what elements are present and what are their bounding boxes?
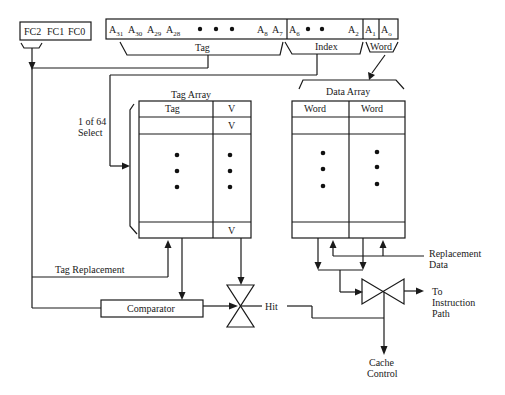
fc1-label: FC1: [47, 26, 64, 37]
ellipsis-dot: [214, 27, 218, 31]
function-code-register: FC2 FC1 FC0: [20, 22, 91, 40]
word-column-header: Word: [304, 103, 326, 114]
tag-replacement-arrowhead: [165, 240, 172, 248]
valid-bit-row: V: [228, 225, 236, 236]
instruction-path-label-2: Instruction: [432, 297, 475, 308]
word-field-label: Word: [370, 41, 392, 52]
instruction-path-label-3: Path: [432, 308, 450, 319]
tag-column-header: Tag: [165, 103, 180, 114]
hit-label: Hit: [265, 301, 278, 312]
tag-array-title: Tag Array: [171, 89, 211, 100]
replacement-arrowhead-2: [380, 240, 387, 248]
fc0-label: FC0: [68, 26, 85, 37]
valid-column-header: V: [228, 103, 236, 114]
tag-replacement-label: Tag Replacement: [55, 264, 125, 275]
cache-control-label-2: Control: [367, 368, 398, 379]
select-label-line2: Select: [78, 127, 103, 138]
instruction-cache-diagram: FC2 FC1 FC0 A31 A30 A29 A28 A8 A7 A6 A2 …: [0, 0, 505, 395]
tag-field-label: Tag: [195, 42, 210, 53]
comparator-label: Comparator: [127, 303, 175, 314]
replacement-data-label-1: Replacement: [429, 248, 481, 259]
instruction-path-label-1: To: [432, 286, 442, 297]
ellipsis-dot: [320, 27, 324, 31]
replacement-data-label-2: Data: [429, 259, 448, 270]
select-arrowhead: [122, 163, 130, 170]
ellipsis-dot: [306, 27, 310, 31]
ellipsis-dot: [198, 27, 202, 31]
data-output-gate: [362, 279, 404, 304]
data-array: Word Word: [292, 101, 405, 238]
valid-output-arrowhead: [238, 277, 245, 285]
word-arrowhead: [368, 72, 375, 80]
data-array-title: Data Array: [326, 86, 370, 97]
valid-bit-row: V: [228, 120, 236, 131]
word2-output-arrowhead: [360, 262, 367, 270]
word-column-header: Word: [361, 103, 383, 114]
index-field-label: Index: [315, 41, 338, 52]
word1-output-arrowhead: [315, 262, 322, 270]
address-register: A31 A30 A29 A28 A8 A7 A6 A2 A1 Ao: [106, 19, 398, 39]
select-label-line1: 1 of 64: [78, 116, 106, 127]
word-arrow-line: [372, 55, 385, 73]
fc-brace: [21, 43, 42, 48]
tag-array: Tag V V V: [139, 101, 251, 238]
cache-control-label-1: Cache: [369, 357, 395, 368]
cache-control-arrowhead: [381, 346, 388, 355]
replacement-arrowhead-1: [330, 240, 337, 248]
tag-array-select-bracket: [130, 104, 137, 234]
instruction-path-arrowhead: [416, 288, 424, 295]
ellipsis-dot: [230, 27, 234, 31]
comparator: Comparator: [101, 300, 203, 317]
fc2-label: FC2: [24, 26, 41, 37]
tag-output-arrowhead: [179, 292, 186, 300]
comparator-arrowhead: [229, 303, 238, 310]
